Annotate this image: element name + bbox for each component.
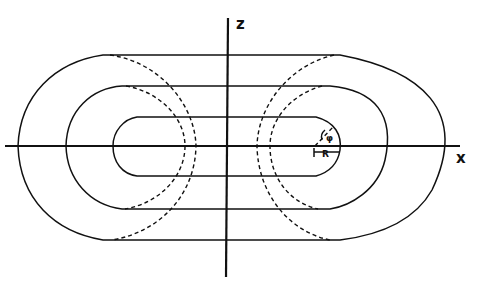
z-axis [226,18,228,277]
outer-surface [18,55,445,240]
z-axis-label: z [236,15,245,33]
left-outer-dashed-arc [110,55,196,240]
torus-diagram: x z R φ [0,0,496,290]
angle-label: φ [326,133,333,143]
left-inner-dashed-arc [125,86,185,209]
angle-arc [321,130,325,140]
radius-label: R [322,149,329,159]
x-axis-label: x [456,149,466,167]
right-inner-dashed-arc [270,86,322,209]
right-outer-dashed-arc [257,55,334,240]
